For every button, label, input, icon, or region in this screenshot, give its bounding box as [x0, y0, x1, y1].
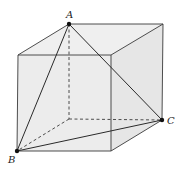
- vertex-b-point: [15, 149, 19, 153]
- vertex-a-label: A: [65, 9, 73, 20]
- vertex-c-point: [160, 118, 164, 122]
- front-face: [17, 55, 111, 151]
- vertex-a-point: [67, 22, 71, 26]
- cube-diagram: A B C: [0, 0, 184, 171]
- vertex-c-label: C: [167, 115, 175, 126]
- vertex-b-label: B: [7, 154, 15, 165]
